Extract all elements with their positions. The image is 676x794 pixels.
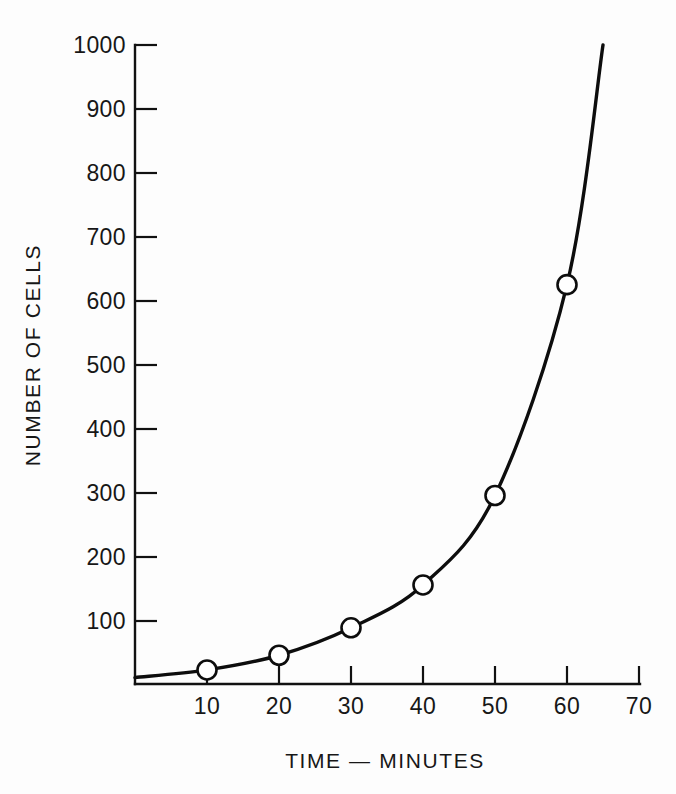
y-tick-label: 500 xyxy=(86,352,126,378)
data-point-marker xyxy=(198,660,217,679)
y-tick-label: 600 xyxy=(86,288,126,314)
data-curve-line xyxy=(135,45,603,678)
y-tick-label: 100 xyxy=(86,608,126,634)
x-axis-tick-labels: 10 20 30 40 50 60 70 xyxy=(194,693,652,719)
x-tick-label: 60 xyxy=(554,693,580,719)
y-tick-label: 200 xyxy=(86,544,126,570)
x-tick-label: 40 xyxy=(410,693,436,719)
x-tick-label: 30 xyxy=(338,693,364,719)
y-tick-label: 1000 xyxy=(73,32,126,58)
y-tick-label: 400 xyxy=(86,416,126,442)
y-tick-label: 700 xyxy=(86,224,126,250)
data-point-marker xyxy=(342,618,361,637)
data-point-marker xyxy=(270,646,289,665)
y-axis-ticks xyxy=(135,45,157,621)
growth-curve-chart: 1000 900 800 700 600 500 400 300 200 100… xyxy=(0,0,676,794)
data-point-marker xyxy=(414,575,433,594)
data-point-marker xyxy=(558,275,577,294)
data-point-marker xyxy=(486,486,505,505)
y-tick-label: 300 xyxy=(86,480,126,506)
data-point-markers xyxy=(198,275,577,679)
x-tick-label: 70 xyxy=(626,693,652,719)
x-tick-label: 10 xyxy=(194,693,220,719)
y-tick-label: 800 xyxy=(86,160,126,186)
x-axis-title: TIME — MINUTES xyxy=(285,749,485,772)
x-tick-label: 20 xyxy=(266,693,292,719)
x-tick-label: 50 xyxy=(482,693,508,719)
y-axis-title: NUMBER OF CELLS xyxy=(21,244,44,466)
chart-figure: 1000 900 800 700 600 500 400 300 200 100… xyxy=(0,0,676,794)
y-tick-label: 900 xyxy=(86,96,126,122)
y-axis-tick-labels: 1000 900 800 700 600 500 400 300 200 100 xyxy=(73,32,126,634)
x-axis-ticks xyxy=(207,666,639,684)
